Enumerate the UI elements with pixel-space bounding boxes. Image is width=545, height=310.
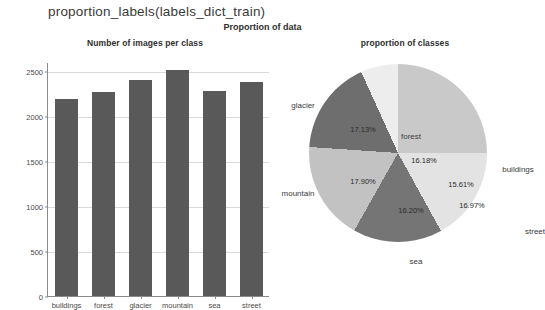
x-tick-label: glacier: [129, 301, 151, 310]
y-tick-label: 1000: [26, 203, 43, 212]
bar-chart-title: Number of images per class: [87, 38, 203, 48]
pie-category-label: mountain: [282, 189, 315, 198]
pie-chart-plot-area: 15.61%16.18%17.13%17.90%16.20%16.97% bui…: [309, 64, 487, 242]
pie-chart-panel: proportion of classes 15.61%16.18%17.13%…: [285, 34, 525, 289]
y-tick-mark: [45, 252, 48, 253]
pie-category-label: glacier: [291, 101, 315, 110]
gridline: [48, 207, 269, 208]
y-tick-mark: [45, 72, 48, 73]
bar: [92, 92, 114, 296]
bar-chart-panel: Number of images per class 0500100015002…: [0, 34, 290, 289]
y-tick-label: 2000: [26, 113, 43, 122]
y-tick-mark: [45, 297, 48, 298]
y-tick-label: 500: [30, 248, 43, 257]
x-tick-label: forest: [94, 301, 113, 310]
gridline: [48, 162, 269, 163]
x-tick-mark: [215, 296, 216, 299]
y-tick-mark: [45, 117, 48, 118]
y-tick-label: 2500: [26, 68, 43, 77]
y-tick-mark: [45, 162, 48, 163]
x-tick-mark: [104, 296, 105, 299]
gridline: [48, 72, 269, 73]
pie-category-label: street: [525, 227, 545, 236]
y-tick-mark: [45, 207, 48, 208]
x-tick-mark: [252, 296, 253, 299]
x-tick-label: buildings: [52, 301, 82, 310]
notebook-code-title: proportion_labels(labels_dict_train): [48, 4, 265, 19]
bar: [55, 99, 77, 296]
x-tick-mark: [67, 296, 68, 299]
x-tick-label: street: [242, 301, 261, 310]
y-tick-label: 0: [39, 293, 43, 302]
pie-category-label: buildings: [502, 165, 534, 174]
bar: [129, 80, 151, 296]
x-tick-mark: [141, 296, 142, 299]
pie-category-label: forest: [401, 132, 421, 141]
gridline: [48, 252, 269, 253]
bar: [240, 82, 262, 296]
figure-suptitle: Proportion of data: [0, 22, 525, 32]
x-tick-label: mountain: [162, 301, 193, 310]
bar: [166, 70, 188, 296]
bar: [203, 91, 225, 296]
x-tick-mark: [178, 296, 179, 299]
y-tick-label: 1500: [26, 158, 43, 167]
bar-chart-plot-area: 05001000150020002500 buildingsforestglac…: [47, 63, 269, 297]
x-tick-label: sea: [208, 301, 220, 310]
pie-category-label: sea: [410, 257, 423, 266]
pie-chart-title: proportion of classes: [361, 38, 450, 48]
gridline: [48, 117, 269, 118]
pie-disc: [309, 64, 487, 242]
